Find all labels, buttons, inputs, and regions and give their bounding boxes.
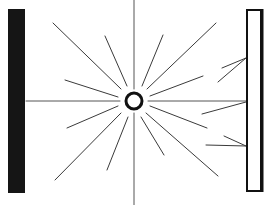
point-light-source: [126, 93, 142, 109]
dark-absorbing-wall: [8, 9, 25, 193]
reflecting-panel: [247, 9, 264, 192]
white-reflecting-panel: [247, 10, 262, 191]
light-source-diagram: [0, 0, 266, 205]
panel-dark-edge: [260, 9, 264, 192]
